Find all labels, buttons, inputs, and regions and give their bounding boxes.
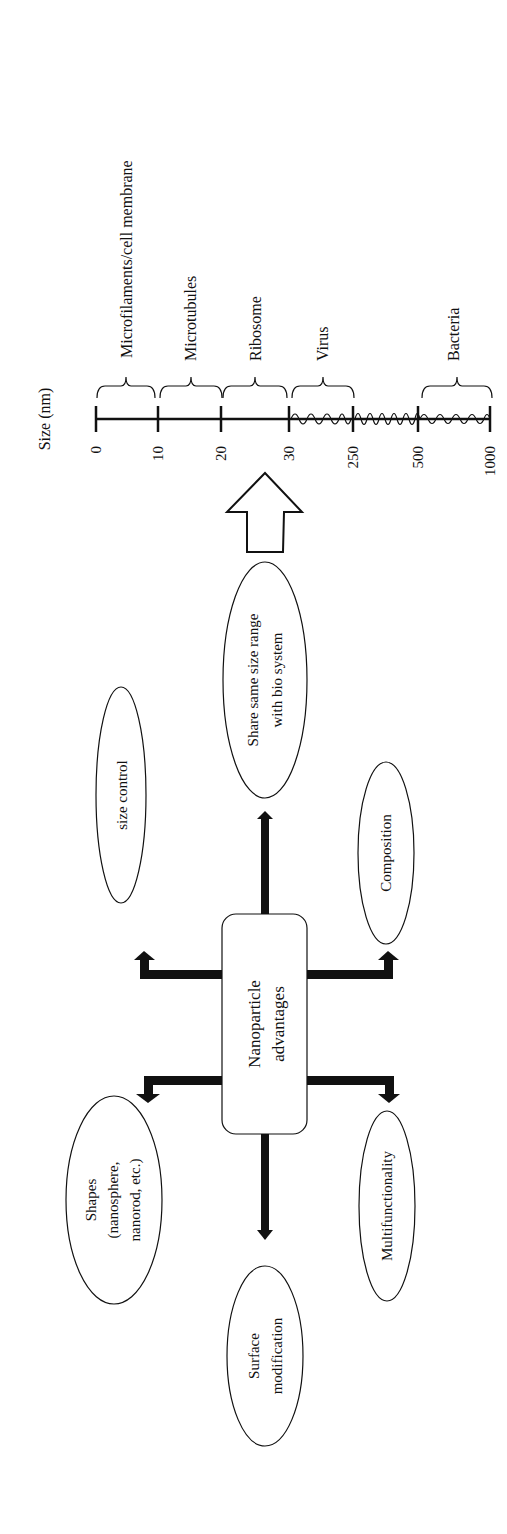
center-line2: advantages (269, 986, 288, 1062)
range-braces (97, 377, 492, 398)
node-composition: Composition (358, 762, 414, 944)
node-shapes: Shapes (nanosphere, nanorod, etc.) (66, 1096, 162, 1304)
node-size-control: size control (96, 687, 146, 903)
tick-label: 1000 (482, 446, 498, 476)
range-labels: Microfilaments/cell membrane Microtubule… (118, 160, 462, 361)
tick-label: 20 (213, 446, 229, 461)
tick-label: 0 (88, 446, 104, 454)
center-box-nanoparticle-advantages: Nanoparticle advantages (222, 914, 307, 1134)
range-label-ribosome: Ribosome (247, 296, 264, 361)
nanoparticle-diagram: Size (nm) 0 10 20 30 250 500 1000 (0, 0, 507, 1534)
node-multifunctionality: Multifunctionality (359, 1111, 415, 1301)
node-share-line2: with bio system (269, 632, 285, 727)
node-shapes-line1: Shapes (83, 1179, 99, 1222)
node-surface-modification: Surface modification (227, 1266, 303, 1446)
tick-labels: 0 10 20 30 250 500 1000 (88, 446, 498, 476)
range-label-microfilaments: Microfilaments/cell membrane (118, 160, 135, 358)
range-label-virus: Virus (314, 326, 331, 361)
center-line1: Nanoparticle (245, 980, 264, 1068)
range-label-microtubules: Microtubules (182, 276, 199, 361)
tick-label: 500 (410, 446, 426, 469)
node-shapes-line2: (nanosphere, (105, 1161, 122, 1238)
tick-label: 10 (150, 446, 166, 461)
size-scale: Size (nm) 0 10 20 30 250 500 1000 (36, 160, 498, 476)
range-label-bacteria: Bacteria (445, 308, 462, 361)
tick-label: 250 (345, 446, 361, 469)
node-share-size-range: Share same size range with bio system (223, 562, 307, 798)
node-surface-line1: Surface (246, 1333, 262, 1379)
node-shapes-line3: nanorod, etc.) (127, 1159, 144, 1242)
node-surface-line2: modification (269, 1317, 285, 1394)
node-size-control-label: size control (114, 760, 130, 830)
node-composition-label: Composition (378, 814, 394, 892)
node-multifunctionality-label: Multifunctionality (379, 1151, 395, 1261)
big-up-arrow-icon (227, 473, 302, 552)
tick-label: 30 (281, 446, 297, 461)
node-share-line1: Share same size range (245, 613, 261, 746)
scale-title: Size (nm) (36, 388, 54, 451)
